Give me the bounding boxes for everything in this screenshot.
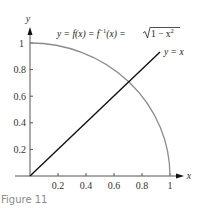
x-axis-arrow-icon <box>176 174 184 179</box>
y-tick-label: 1 <box>19 38 24 49</box>
y-axis-label: y <box>25 13 31 24</box>
x-tick-label: 0.6 <box>108 180 121 191</box>
figure-caption: Figure 11 <box>1 194 47 205</box>
y-tick-label: 0.6 <box>14 91 27 102</box>
x-tick-label: 0.4 <box>80 180 93 191</box>
y-tick-label: 0.8 <box>14 64 27 75</box>
line-y-equals-x <box>30 52 160 176</box>
svg-text:1 − x2: 1 − x2 <box>151 27 174 39</box>
y-tick-label: 0.2 <box>14 144 27 155</box>
x-tick-label: 0.8 <box>136 180 149 191</box>
x-tick-label: 1 <box>168 180 173 191</box>
x-tick-label: 0.2 <box>52 180 65 191</box>
x-axis-label: x <box>186 170 192 181</box>
figure-plot: 0.2 0.4 0.6 0.8 1 0.2 0.4 0.6 0.8 1 y x … <box>0 0 198 211</box>
line-label: y = x <box>163 47 184 57</box>
svg-text:y = f(x) = f−1(x) =: y = f(x) = f−1(x) = <box>56 27 126 40</box>
y-axis-arrow-icon <box>28 27 33 35</box>
y-tick-label: 0.4 <box>14 117 27 128</box>
equation-label: y = f(x) = f−1(x) = 1 − x2 <box>56 27 180 40</box>
